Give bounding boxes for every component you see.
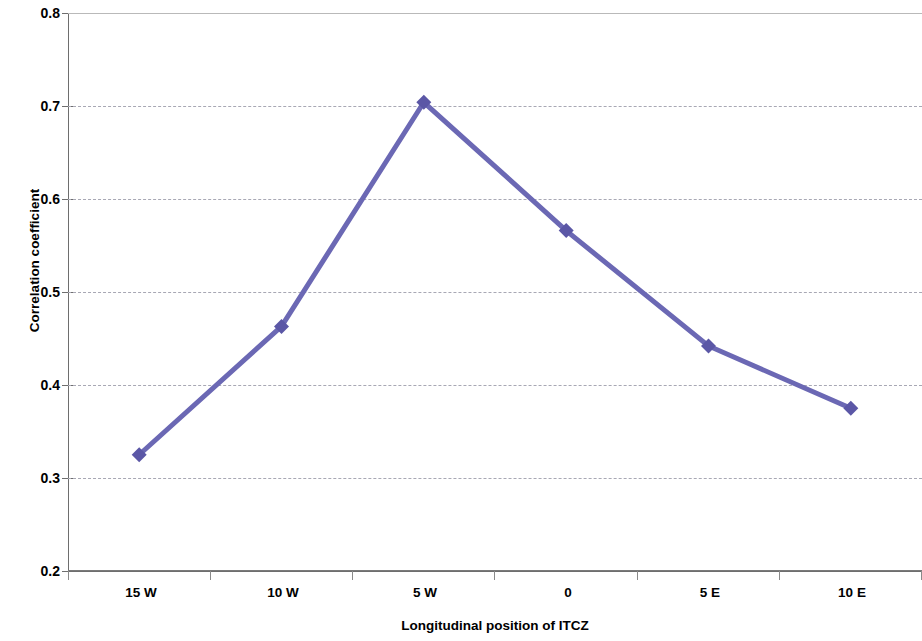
- y-tick-label: 0.5: [8, 284, 60, 300]
- plot-area: [68, 13, 922, 571]
- series-markers: [132, 95, 859, 462]
- series-polyline: [139, 102, 851, 454]
- y-tick-label: 0.4: [8, 377, 60, 393]
- y-axis-tick-labels: 0.8 0.7 0.6 0.5 0.4 0.3 0.2: [0, 0, 60, 641]
- x-tick-mark: [494, 571, 495, 580]
- x-tick-label-5e: 5 E: [640, 585, 780, 600]
- x-tick-label-5w: 5 W: [355, 585, 495, 600]
- x-tick-mark: [352, 571, 353, 580]
- x-tick-label-15w: 15 W: [71, 585, 211, 600]
- series-line-correlation-coefficient: [68, 13, 922, 571]
- y-tick-label: 0.8: [8, 5, 60, 21]
- y-tick-label: 0.7: [8, 98, 60, 114]
- x-tick-label-10w: 10 W: [213, 585, 353, 600]
- x-tick-mark: [68, 571, 69, 580]
- x-tick-label-10e: 10 E: [782, 585, 922, 600]
- x-tick-mark: [210, 571, 211, 580]
- x-tick-label-0: 0: [498, 585, 638, 600]
- x-axis-line: [68, 571, 922, 572]
- x-tick-mark: [779, 571, 780, 580]
- line-chart: Correlation coefficient 0.8 0.7 0.6 0.5 …: [0, 0, 922, 641]
- x-axis-title: Longitudinal position of ITCZ: [68, 618, 922, 633]
- y-tick-label: 0.6: [8, 191, 60, 207]
- data-point-marker: [843, 401, 858, 416]
- x-tick-mark: [637, 571, 638, 580]
- y-tick-label: 0.3: [8, 470, 60, 486]
- y-tick-label: 0.2: [8, 563, 60, 579]
